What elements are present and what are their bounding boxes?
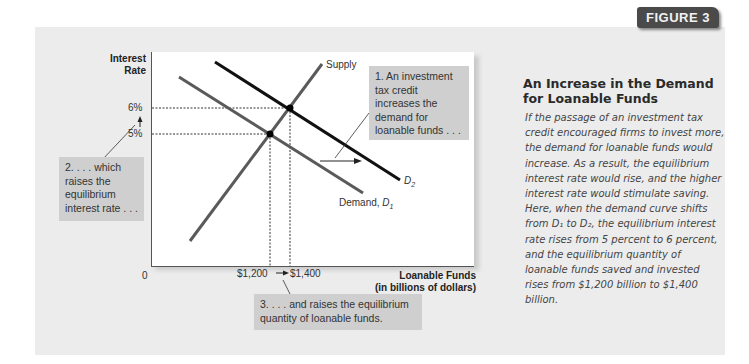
origin-label: 0 (142, 270, 148, 281)
x-tick-1200: $1,200 (237, 268, 268, 279)
figure-caption: If the passage of an investment tax cred… (525, 110, 725, 308)
rate-rise-arrow-head (138, 116, 143, 122)
quantity-rise-arrow-head (283, 271, 289, 276)
equilibrium-point-2 (287, 105, 294, 112)
y-tick-6: 6% (128, 102, 142, 113)
d1-subscript: 1 (390, 203, 394, 210)
x-axis-title-line1: Loanable Funds (370, 270, 476, 282)
y-axis-title-line2: Rate (96, 65, 146, 77)
x-axis-title-line2: (in billions of dollars) (370, 282, 476, 294)
y-axis-title-line1: Interest (96, 53, 146, 65)
shift-arrow-head (354, 158, 362, 164)
d1-label: Demand, D1 (339, 197, 394, 210)
supply-label: Supply (326, 59, 357, 70)
callout3-leader (283, 280, 290, 294)
d1-symbol: D (382, 197, 389, 208)
y-tick-5: 5% (128, 128, 142, 139)
callout-1: 1. An investment tax credit increases th… (369, 66, 469, 140)
d2-subscript: 2 (411, 181, 415, 188)
equilibrium-point-1 (267, 131, 274, 138)
d1-prefix: Demand, (339, 197, 382, 208)
y-axis-title: Interest Rate (96, 53, 146, 77)
figure-title: An Increase in the Demand for Loanable F… (523, 76, 733, 106)
d2-label: D2 (404, 175, 415, 188)
callout1-leader (335, 113, 369, 158)
callout-3: 3. . . . and raises the equilibrium quan… (254, 294, 422, 330)
x-tick-1400: $1,400 (290, 268, 321, 279)
supply-curve (190, 64, 322, 241)
callout-2: 2. . . . which raises the equilibrium in… (59, 157, 144, 221)
x-axis-title: Loanable Funds (in billions of dollars) (370, 270, 476, 294)
